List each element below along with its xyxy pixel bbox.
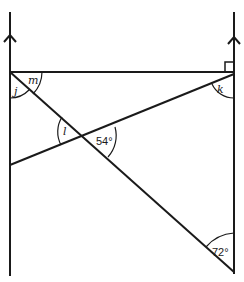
geometry-diagram: m j k l 54° 72° (0, 0, 244, 282)
angle-l-label: l (63, 125, 67, 138)
angle-72-arc (206, 233, 234, 247)
right-angle-marker (225, 62, 234, 72)
angle-j-label: j (11, 85, 18, 98)
angle-72-label: 72° (212, 246, 229, 258)
angle-l-arc (58, 117, 62, 145)
angle-j-arc (10, 90, 29, 98)
angle-k-label: k (217, 83, 224, 96)
angle-54-label: 54° (96, 135, 113, 147)
second-transversal (10, 74, 234, 165)
angle-m-label: m (28, 74, 38, 87)
diagonal-transversal (10, 72, 234, 272)
